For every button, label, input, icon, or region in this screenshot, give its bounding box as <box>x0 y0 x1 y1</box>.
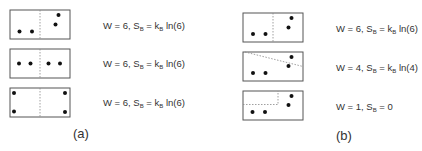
eq-text: ln(6) <box>163 20 185 31</box>
panel-label-a: (a) <box>73 126 89 141</box>
eq-text: ln(4) <box>396 62 418 73</box>
particle-dot <box>57 13 61 17</box>
eq-text: ln(6) <box>163 58 185 69</box>
divider-line <box>245 52 303 67</box>
particle-dot <box>264 71 268 75</box>
eq-text: W = 6, S <box>336 23 373 34</box>
box-b1 <box>243 13 303 42</box>
box-a2 <box>10 49 70 78</box>
particle-dot <box>287 26 291 30</box>
equation-b3: W = 1, SB = 0 <box>336 101 393 113</box>
eq-text: = k <box>377 23 393 34</box>
particle-dot <box>251 32 255 36</box>
particle-dot <box>251 71 255 75</box>
particle-dot <box>287 64 291 68</box>
particle-dot <box>54 23 58 27</box>
eq-text: ln(6) <box>396 23 418 34</box>
particle-dot <box>12 110 16 114</box>
panel-a-boxes <box>10 10 70 117</box>
particle-dot <box>47 62 51 66</box>
equation-a3: W = 6, SB = kB ln(6) <box>103 97 185 109</box>
box-b3 <box>243 91 303 120</box>
equation-b1: W = 6, SB = kB ln(6) <box>336 23 418 35</box>
equation-a2: W = 6, SB = kB ln(6) <box>103 58 185 70</box>
panel-b-boxes <box>243 13 303 120</box>
particle-dot <box>17 62 21 66</box>
eq-text: W = 6, S <box>103 97 140 108</box>
divider-line <box>243 91 278 105</box>
particle-dot <box>290 16 294 20</box>
particle-dot <box>63 110 67 114</box>
equation-a1: W = 6, SB = kB ln(6) <box>103 20 185 32</box>
eq-text: = k <box>144 97 160 108</box>
particle-dot <box>12 91 16 95</box>
eq-text: = 0 <box>377 101 393 112</box>
particle-dot <box>30 30 34 34</box>
panel-label-b: (b) <box>336 128 352 143</box>
particle-dot <box>290 55 294 59</box>
eq-text: ln(6) <box>163 97 185 108</box>
particle-dot <box>290 94 294 98</box>
box-b2 <box>243 52 303 81</box>
particle-dot <box>29 62 33 66</box>
box-a1 <box>10 10 70 39</box>
particle-dot <box>58 62 62 66</box>
eq-text: W = 1, S <box>336 101 373 112</box>
particle-dot <box>263 110 267 114</box>
eq-text: = k <box>144 58 160 69</box>
eq-text: W = 4, S <box>336 62 373 73</box>
eq-text: = k <box>144 20 160 31</box>
particle-dot <box>63 91 67 95</box>
particle-dot <box>251 110 255 114</box>
particle-dot <box>287 103 291 107</box>
eq-text: W = 6, S <box>103 20 140 31</box>
particle-dot <box>264 32 268 36</box>
equation-b2: W = 4, SB = kB ln(4) <box>336 62 418 74</box>
particle-dot <box>18 30 22 34</box>
eq-text: W = 6, S <box>103 58 140 69</box>
box-a3 <box>10 88 70 117</box>
eq-text: = k <box>377 62 393 73</box>
